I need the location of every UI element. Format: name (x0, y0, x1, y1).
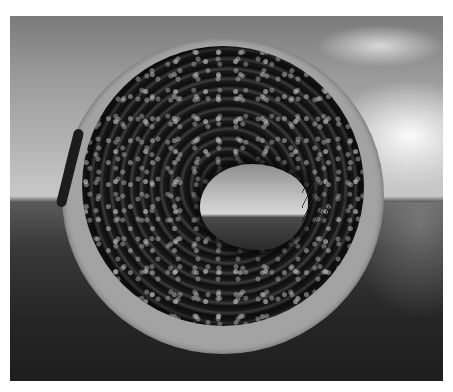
bumpy-torus (82, 46, 364, 326)
rendered-image-frame (10, 16, 443, 381)
hole-spikes (302, 166, 362, 246)
torus-center-hole (200, 164, 308, 250)
